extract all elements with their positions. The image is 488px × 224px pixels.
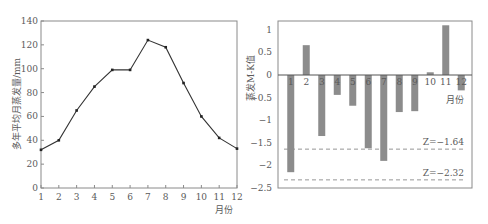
data-point: [40, 149, 43, 152]
bar-chart-mk-values: 10.50−0.5−1−1.5−2−2.5Z=−1.64Z=−2.3212345…: [245, 21, 472, 193]
y-tick-label: −1: [259, 115, 272, 125]
y-axis-label: 蒸发M-K值: [245, 55, 256, 101]
data-point: [236, 147, 239, 150]
x-tick-label: 8: [163, 192, 169, 202]
bar: [287, 75, 294, 172]
reference-line-label: Z=−1.64: [423, 137, 465, 147]
x-tick-label: 4: [92, 192, 98, 202]
x-tick-label: 10: [425, 77, 437, 87]
x-tick-label: 7: [145, 192, 151, 202]
x-tick-label: 6: [365, 77, 371, 87]
data-point: [218, 137, 221, 140]
y-tick-label: 120: [21, 40, 38, 50]
y-tick-label: 100: [21, 64, 38, 74]
x-tick-label: 7: [381, 77, 387, 87]
plot-frame: [41, 21, 237, 188]
x-tick-label: 10: [196, 192, 208, 202]
data-point: [111, 69, 114, 72]
data-point: [93, 85, 96, 88]
bar: [442, 25, 449, 75]
x-tick-label: 9: [181, 192, 187, 202]
y-tick-label: 0.5: [258, 47, 273, 57]
data-point: [164, 46, 167, 49]
x-tick-label: 8: [396, 77, 402, 87]
y-tick-label: 1: [266, 25, 272, 35]
y-tick-label: 20: [27, 159, 39, 169]
data-point: [182, 82, 185, 85]
reference-line-label: Z=−2.32: [423, 168, 464, 178]
x-axis-label: 月份: [215, 204, 233, 215]
y-tick-label: −2.5: [250, 183, 272, 193]
x-tick-label: 11: [213, 192, 224, 202]
x-tick-label: 12: [231, 192, 242, 202]
y-tick-label: 80: [27, 88, 39, 98]
y-tick-label: −2: [259, 160, 272, 170]
data-point: [75, 109, 78, 112]
data-point: [200, 115, 203, 118]
x-tick-label: 6: [127, 192, 133, 202]
figure: 020406080100120140123456789101112月份多年平均月…: [0, 0, 488, 224]
line-chart-evaporation: 020406080100120140123456789101112月份多年平均月…: [11, 16, 243, 215]
data-line: [41, 40, 237, 150]
x-tick-label: 12: [456, 77, 467, 87]
x-tick-label: 9: [412, 77, 418, 87]
bar: [380, 75, 387, 161]
data-point: [129, 69, 132, 72]
x-tick-label: 3: [319, 77, 325, 87]
y-tick-label: 140: [21, 16, 38, 26]
x-tick-label: 3: [74, 192, 80, 202]
y-tick-label: 0: [266, 70, 272, 80]
y-tick-label: 60: [27, 111, 39, 121]
x-tick-label: 2: [56, 192, 62, 202]
bar: [303, 45, 310, 75]
y-tick-label: 40: [27, 135, 39, 145]
x-tick-label: 1: [38, 192, 44, 202]
x-tick-label: 4: [334, 77, 340, 87]
x-tick-label: 2: [303, 77, 309, 87]
y-tick-label: −1.5: [250, 138, 272, 148]
x-tick-label: 1: [288, 77, 294, 87]
x-tick-label: 5: [109, 192, 115, 202]
data-point: [147, 39, 150, 42]
x-tick-label: 5: [350, 77, 356, 87]
x-axis-label: 月份: [446, 94, 464, 105]
y-axis-label: 多年平均月蒸发量/mm: [11, 57, 22, 150]
data-point: [58, 139, 61, 142]
x-tick-label: 11: [440, 77, 451, 87]
